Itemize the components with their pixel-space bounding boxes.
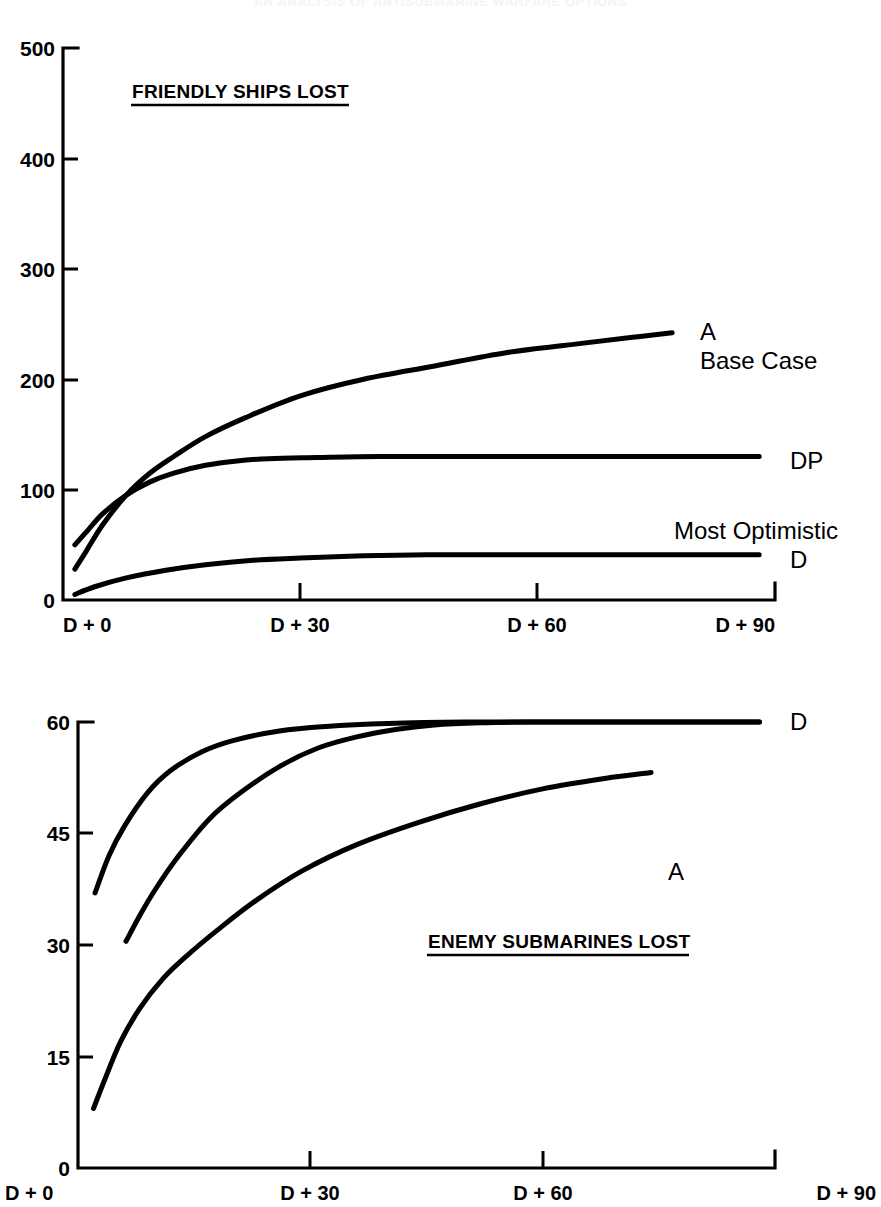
bottom-xtick-d0: D + 0 <box>5 1182 53 1204</box>
bottom-xtick-d60: D + 60 <box>513 1182 572 1204</box>
bottom-label-d: D <box>790 708 807 735</box>
bottom-chart-x-ticks <box>310 1151 543 1168</box>
curve-d-most-optimistic <box>75 555 759 595</box>
bottom-chart-curves <box>93 722 759 1109</box>
bottom-ytick-0: 0 <box>58 1157 70 1180</box>
friendly-ships-lost-chart: 500 400 300 200 100 0 D + 0 D + 30 D + 6… <box>0 0 881 650</box>
enemy-submarines-lost-chart: 60 45 30 15 0 D + 0 D + 30 D + 60 D + 90… <box>0 630 881 1207</box>
curve-middle <box>126 722 759 941</box>
top-chart-curves <box>75 333 759 595</box>
curve-dp <box>75 456 759 544</box>
bottom-xtick-d90: D + 90 <box>817 1182 876 1204</box>
top-ytick-400: 400 <box>20 148 55 171</box>
top-ytick-100: 100 <box>20 479 55 502</box>
bottom-ytick-45: 45 <box>47 822 71 845</box>
top-chart-title: FRIENDLY SHIPS LOST <box>132 81 349 102</box>
top-label-base-case: Base Case <box>700 347 817 374</box>
top-label-d: D <box>790 546 807 573</box>
top-chart-axes <box>63 48 775 600</box>
top-ytick-200: 200 <box>20 369 55 392</box>
bottom-ytick-60: 60 <box>47 711 70 734</box>
bottom-xtick-d30: D + 30 <box>280 1182 339 1204</box>
top-ytick-300: 300 <box>20 258 55 281</box>
chart-page: AN ANALYSIS OF ANTISUBMARINE WARFARE OPT… <box>0 0 881 1207</box>
curve-a-base-case <box>75 333 672 569</box>
top-ytick-0: 0 <box>43 589 55 612</box>
bottom-chart-title: ENEMY SUBMARINES LOST <box>428 931 691 952</box>
top-label-a: A <box>700 318 716 345</box>
top-label-dp: DP <box>790 447 823 474</box>
top-ytick-500: 500 <box>20 37 55 60</box>
top-chart-y-ticks <box>63 159 78 490</box>
bottom-ytick-15: 15 <box>47 1046 71 1069</box>
bottom-chart-y-ticks <box>78 833 93 1057</box>
bottom-ytick-30: 30 <box>47 934 70 957</box>
top-label-most-optimistic: Most Optimistic <box>674 517 838 544</box>
curve-d-upper <box>95 722 759 893</box>
top-chart-x-ticks <box>300 583 537 600</box>
bottom-label-a: A <box>668 858 684 885</box>
